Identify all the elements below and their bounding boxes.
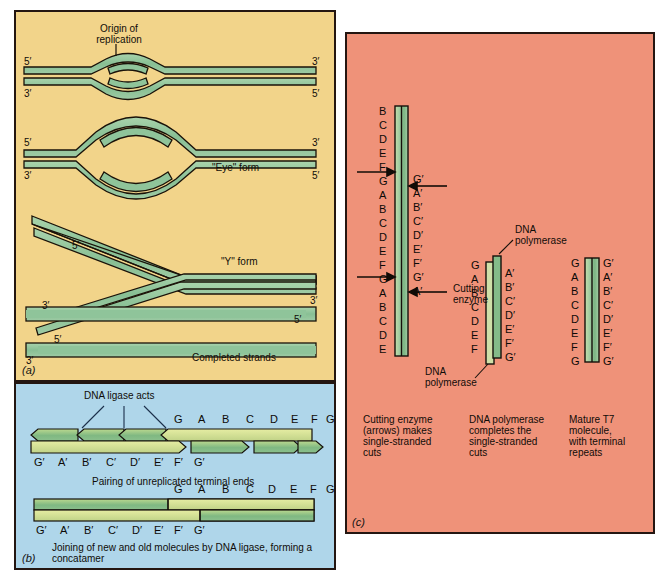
row1-left-5prime: 5′ [24, 56, 31, 67]
panel-b-ligase-concatamer: DNA ligase acts G A B C D E F G G′ A′ B′… [14, 382, 336, 570]
panel-a-diagram [16, 12, 334, 380]
dna-ligase-acts-label: DNA ligase acts [84, 390, 155, 401]
eye-form-label: "Eye" form [212, 162, 259, 173]
row2-left-3prime: 3′ [24, 170, 31, 181]
col1-dna-bar [395, 106, 408, 356]
col3-dna-bar [585, 258, 599, 362]
cut-arrow-left-upper [357, 168, 395, 176]
row2-right-3prime: 3′ [312, 137, 319, 148]
y-form-lower-3prime: 3′ [42, 300, 49, 311]
col1-cutting-arrows [357, 168, 447, 296]
caption-dna-polymerase: DNA polymerase completes the single-stra… [469, 414, 569, 458]
dna-row-eye-large [24, 117, 316, 199]
panel-a-label: (a) [22, 364, 35, 376]
row2-concatamer [34, 499, 314, 521]
row1-right-3prime: 3′ [312, 56, 319, 67]
caption-cutting-enzyme: Cutting enzyme (arrows) makes single-str… [363, 414, 463, 458]
panel-b-label: (b) [22, 552, 35, 564]
col2-dna-bar [486, 256, 501, 364]
row2-left-5prime: 5′ [24, 137, 31, 148]
completed-bottom-5prime: 5′ [54, 334, 61, 345]
panel-a-replication-forms: Origin of replication 5′ 3′ 3′ 5′ 5′ 3′ … [14, 10, 336, 382]
completed-top-5prime: 5′ [294, 314, 301, 325]
origin-of-replication-label: Origin of replication [74, 23, 164, 45]
cut-arrow-left-lower [357, 273, 395, 281]
completed-strands-label: Completed strands [192, 352, 276, 363]
row1-right-5prime: 5′ [312, 88, 319, 99]
y-form-label: "Y" form [221, 256, 258, 267]
dna-row-completed [26, 307, 316, 357]
dna-polymerase-label-top: DNA polymerase [515, 224, 567, 246]
panel-c-label: (c) [352, 516, 365, 528]
ligase-leader-lines [82, 406, 166, 428]
completed-top-3prime: 3′ [310, 295, 317, 306]
y-form-upper-5prime: 5′ [72, 240, 79, 251]
caption-mature-t7: Mature T7 molecule, with terminal repeat… [569, 414, 659, 458]
dna-row-y-form [32, 216, 316, 335]
dna-row-eye-small [24, 54, 316, 100]
row2-right-5prime: 5′ [312, 170, 319, 181]
row1-left-3prime: 3′ [24, 88, 31, 99]
dna-polymerase-label-bottom: DNA polymerase [425, 366, 477, 388]
row1-segments [31, 429, 323, 453]
panel-c-maturation: Cutting enzyme DNA polymerase DNA polyme… [345, 32, 655, 534]
ligase-joining-caption: Joining of new and old molecules by DNA … [52, 542, 312, 564]
